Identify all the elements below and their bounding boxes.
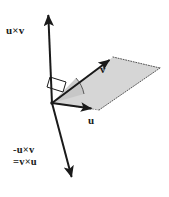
plane-parallelogram	[52, 57, 160, 110]
label-vector-u: u	[88, 115, 94, 127]
label-negative-u-cross-v-line1: -u×v	[13, 144, 34, 155]
axis-cross-vector	[48, 15, 52, 103]
label-negative-u-cross-v-line2: =v×u	[13, 156, 37, 167]
axis-negative-cross-vector	[52, 103, 72, 177]
origin-point	[50, 101, 54, 105]
right-angle-marker	[47, 77, 66, 92]
label-vector-v: v	[100, 64, 106, 76]
cross-product-figure: u×v v u -u×v =v×u	[0, 0, 169, 197]
label-u-cross-v: u×v	[6, 25, 25, 37]
figure-canvas	[0, 0, 169, 197]
label-negative-u-cross-v: -u×v =v×u	[13, 144, 37, 167]
